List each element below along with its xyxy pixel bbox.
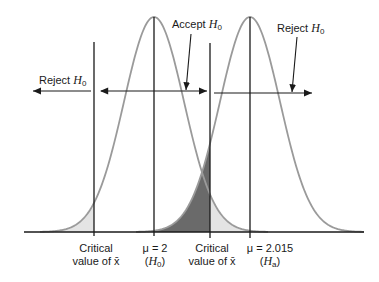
label-line1: Critical	[184, 242, 240, 255]
reject-left-label: Reject H0	[39, 74, 86, 90]
critical-value-right-label: Critical value of x̄	[184, 242, 240, 268]
h-symbol: H	[73, 73, 82, 87]
accept-label: Accept H0	[172, 18, 222, 34]
h-symbol: H	[263, 254, 272, 268]
accept-pointer	[186, 34, 191, 90]
label-text: Accept	[172, 18, 206, 30]
label-line1: Critical	[68, 242, 124, 255]
h-symbol: H	[148, 254, 157, 268]
h-symbol: H	[311, 21, 320, 35]
mu-null-label: μ = 2 (H0)	[130, 242, 180, 271]
subscript: 0	[82, 79, 86, 88]
label-line2: value of x̄	[68, 255, 124, 268]
critical-value-left-label: Critical value of x̄	[68, 242, 124, 268]
label-text: Reject	[277, 22, 308, 34]
hypothesis-test-diagram: Reject H0 Accept H0 Reject H0 Critical v…	[0, 0, 379, 282]
left-tail-shade	[40, 203, 94, 232]
subscript: a	[272, 260, 276, 269]
subscript: 0	[320, 27, 324, 36]
right-tail-shade	[210, 194, 268, 232]
label-text: Reject	[39, 74, 70, 86]
subscript: 0	[157, 260, 161, 269]
reject-right-label: Reject H0	[277, 22, 324, 38]
reject-right-pointer	[292, 37, 297, 92]
subscript: 0	[217, 23, 221, 32]
label-line2: (H0)	[130, 255, 180, 271]
label-line2: value of x̄	[184, 255, 240, 268]
label-line2: (Ha)	[238, 255, 302, 271]
mu-alt-label: μ = 2.015 (Ha)	[238, 242, 302, 271]
diagram-canvas	[0, 0, 379, 282]
